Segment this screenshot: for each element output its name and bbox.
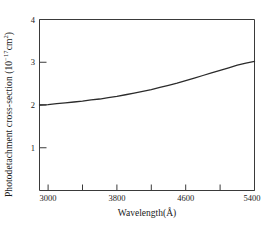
x-tick-label: 3000 [40,193,57,203]
chart-plot-area: 4 3 2 1 3000 3800 4600 5400 Wavelength( [0,0,276,229]
x-tick-label: 5400 [244,193,261,203]
data-curve-photodetachment [40,61,255,105]
y-axis-ticks [40,20,47,148]
y-tick-label: 2 [31,100,35,110]
chart-figure: 4 3 2 1 3000 3800 4600 5400 Wavelength( [0,0,276,229]
x-axis-title: Wavelength(Å) [118,207,176,219]
x-axis-ticks [48,185,254,191]
plot-frame [40,20,255,191]
data-series-group [40,61,255,105]
x-tick-label: 4600 [177,193,194,203]
x-axis-tick-labels: 3000 3800 4600 5400 [40,193,261,203]
y-tick-label: 1 [31,143,35,153]
y-axis-tick-labels: 4 3 2 1 [31,15,36,153]
y-tick-label: 3 [31,57,35,67]
x-tick-label: 3800 [108,193,125,203]
y-tick-label: 4 [31,15,36,25]
